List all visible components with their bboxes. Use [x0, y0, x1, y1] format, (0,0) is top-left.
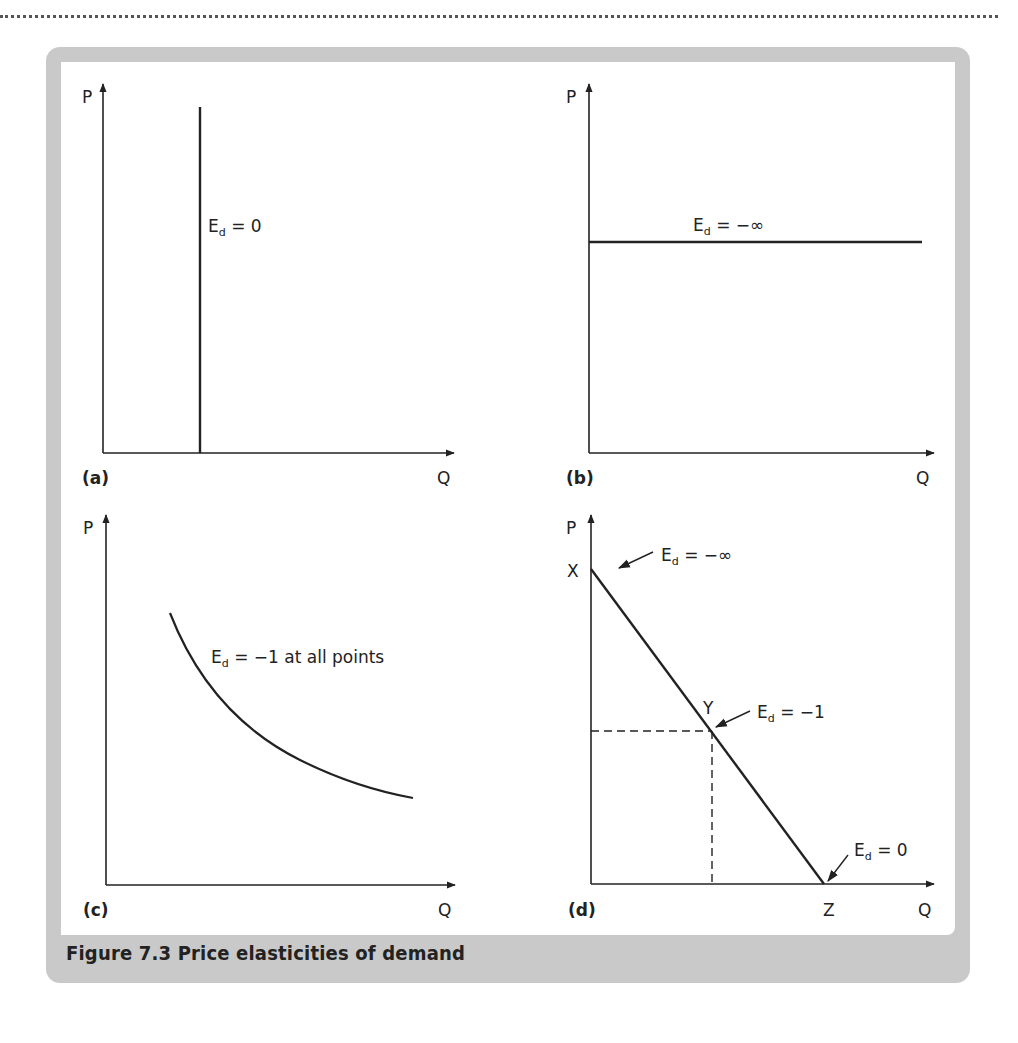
arrow-to-z-icon — [828, 855, 848, 881]
elasticity-label: Ed = −∞ — [693, 215, 764, 238]
elasticity-label: Ed = −1 at all points — [211, 647, 384, 670]
panel-c: P Q (c) Ed = −1 at all points — [83, 515, 455, 920]
p-axis-label: P — [566, 87, 576, 107]
arrow-to-x-icon — [619, 552, 653, 568]
demand-curve-hyperbola — [170, 613, 413, 798]
panel-b: P Q (b) Ed = −∞ — [566, 84, 934, 488]
q-axis-label: Q — [438, 900, 451, 920]
point-x-label: X — [567, 561, 579, 581]
figure-svg: P Q (a) Ed = 0 P Q (b) Ed = −∞ P Q (c) E… — [0, 0, 1018, 1043]
panel-label: (a) — [82, 468, 109, 488]
q-axis-label: Q — [916, 468, 929, 488]
arrow-to-y-icon — [716, 711, 750, 727]
elasticity-label-y: Ed = −1 — [757, 702, 825, 725]
elasticity-label: Ed = 0 — [208, 216, 262, 239]
panel-label: (d) — [568, 900, 596, 920]
point-y-label: Y — [702, 698, 714, 718]
p-axis-label: P — [566, 518, 576, 538]
p-axis-label: P — [82, 87, 92, 107]
point-z-label: Z — [823, 900, 835, 920]
figure-caption: Figure 7.3 Price elasticities of demand — [66, 941, 465, 965]
p-axis-label: P — [83, 518, 93, 538]
panel-a: P Q (a) Ed = 0 — [82, 84, 454, 488]
panel-label: (b) — [566, 468, 594, 488]
elasticity-label-x: Ed = −∞ — [661, 545, 732, 568]
q-axis-label: Q — [437, 468, 450, 488]
q-axis-label: Q — [918, 900, 931, 920]
panel-d: P Q (d) X Y Z Ed = −∞ Ed = −1 Ed = 0 — [566, 515, 934, 920]
elasticity-label-z: Ed = 0 — [854, 840, 908, 863]
panel-label: (c) — [83, 900, 109, 920]
demand-curve-linear — [591, 569, 824, 884]
